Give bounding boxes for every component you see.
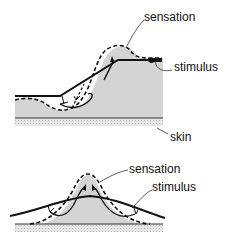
label-sensation-bottom: sensation: [129, 163, 180, 175]
skin-band-top: [15, 118, 163, 126]
top-fork-1: [60, 96, 68, 104]
bottom-fork-left: [48, 206, 54, 212]
skin-band-bottom: [15, 224, 163, 232]
stimulus-leader-bottom: [132, 190, 152, 208]
sensation-leader-top: [127, 20, 144, 46]
bottom-sensation-fill: [40, 175, 145, 224]
diagram-canvas: [0, 0, 236, 248]
top-panel: [15, 20, 172, 134]
label-sensation-top: sensation: [144, 11, 195, 23]
label-stimulus-top: stimulus: [174, 61, 218, 73]
label-skin: skin: [170, 131, 191, 143]
skin-leader: [157, 128, 168, 134]
sensation-leader-bottom: [100, 170, 128, 182]
top-sensation-fill: [15, 46, 163, 118]
label-stimulus-bottom: stimulus: [152, 181, 196, 193]
bottom-panel: [10, 170, 165, 232]
